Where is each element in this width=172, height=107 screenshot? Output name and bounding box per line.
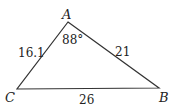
side-cb-label: 26	[79, 93, 94, 107]
side-ac-label: 16.1	[18, 46, 45, 60]
vertex-label-a: A	[61, 7, 71, 22]
vertex-label-c: C	[5, 90, 15, 105]
vertex-label-b: B	[158, 90, 169, 105]
triangle-diagram: A B C 88° 16.1 21 26	[0, 0, 172, 107]
angle-a-label: 88°	[62, 33, 83, 47]
side-ab-label: 21	[115, 45, 130, 59]
